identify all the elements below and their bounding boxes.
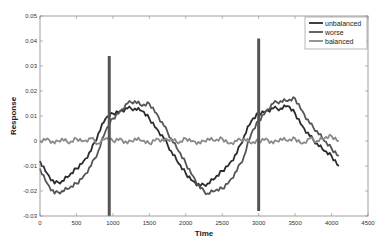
y-tick-label: 0.03 [25,63,37,69]
y-tick-label: -0.03 [23,213,37,219]
line-chart: -0.03-0.02-0.0100.010.020.030.040.05 050… [0,0,385,245]
x-tick-label: 4000 [325,220,339,226]
y-axis-label: Response [9,96,18,135]
series-layer [40,39,339,217]
y-tick-label: 0.02 [25,88,37,94]
x-tick-label: 1500 [143,220,157,226]
y-tick-label: -0.02 [23,188,37,194]
y-tick-label: 0 [34,138,38,144]
x-tick-label: 3500 [288,220,302,226]
legend: unbalancedworsebalanced [305,17,367,49]
x-tick-label: 500 [71,220,82,226]
spike-marker [257,39,260,212]
x-tick-label: 2000 [179,220,193,226]
x-tick-label: 0 [38,220,42,226]
x-tick-label: 4500 [361,220,375,226]
x-tick-label: 3000 [252,220,266,226]
legend-label-worse: worse [324,29,344,36]
x-tick-label: 2500 [216,220,230,226]
x-tick-label: 1000 [106,220,120,226]
y-tick-label: 0.04 [25,38,37,44]
x-axis-label: Time [195,229,214,238]
spike-marker [108,56,111,216]
series-line-balanced [40,135,339,145]
legend-label-unbalanced: unbalanced [325,20,361,27]
y-tick-label: 0.01 [25,113,37,119]
y-tick-label: 0.05 [25,13,37,19]
legend-label-balanced: balanced [325,38,354,45]
y-tick-label: -0.01 [23,163,37,169]
